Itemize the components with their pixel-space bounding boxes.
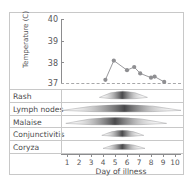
- x-tick-mark: [139, 154, 140, 157]
- x-tick-mark: [127, 154, 128, 157]
- y-tick-label: 38: [43, 60, 58, 68]
- y-tick-label: 37: [43, 80, 58, 88]
- x-tick-mark: [79, 154, 80, 157]
- x-tick-mark: [103, 154, 104, 157]
- x-axis-title: Day of illness: [61, 167, 181, 177]
- symptom-row-conjunctivitis: Conjunctivitis: [10, 127, 183, 140]
- symptom-label: Rash: [13, 91, 32, 102]
- measles-clinical-course-figure: Temperature (C) 40 39 38 37 Rash Lymph n…: [9, 12, 184, 175]
- temperature-plot-area: [61, 13, 181, 89]
- y-tick-label: 39: [43, 38, 58, 46]
- x-tick-mark: [67, 154, 68, 157]
- x-tick-mark: [115, 154, 116, 157]
- x-tick-mark: [175, 154, 176, 157]
- symptom-label: Malaise: [13, 117, 42, 128]
- x-axis: 12345678910 Day of illness: [10, 153, 183, 177]
- temperature-panel: Temperature (C) 40 39 38 37: [10, 13, 183, 89]
- symptom-label: Coryza: [13, 142, 39, 153]
- symptom-row-lymph-nodes: Lymph nodes: [10, 102, 183, 115]
- x-tick-mark: [163, 154, 164, 157]
- temperature-line-series: [61, 13, 181, 89]
- symptom-row-rash: Rash: [10, 89, 183, 102]
- y-axis-label: Temperature (C): [20, 4, 31, 76]
- x-tick-mark: [151, 154, 152, 157]
- x-tick-mark: [91, 154, 92, 157]
- label-column-divider: [61, 89, 62, 153]
- symptom-row-coryza: Coryza: [10, 140, 183, 153]
- symptom-rows: Rash Lymph nodes Malaise Conjunctivitis …: [10, 89, 183, 153]
- x-tick-label: 10: [168, 158, 182, 167]
- y-tick-label: 40: [43, 16, 58, 24]
- y-axis-tick-labels: 40 39 38 37: [38, 13, 58, 89]
- symptom-row-malaise: Malaise: [10, 115, 183, 128]
- symptom-label: Lymph nodes: [13, 104, 63, 115]
- symptom-label: Conjunctivitis: [13, 129, 64, 140]
